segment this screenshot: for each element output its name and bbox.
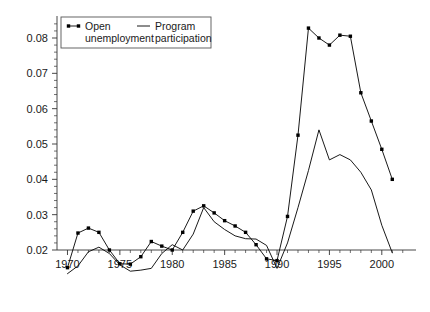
y-tick-label: 0.04	[27, 173, 48, 185]
x-tick-label: 2000	[370, 258, 394, 270]
series-marker	[359, 91, 362, 94]
series-marker	[108, 248, 111, 251]
series-marker	[97, 231, 100, 234]
series-marker	[202, 204, 205, 207]
legend-swatch-marker	[67, 24, 70, 27]
x-tick-label: 1980	[160, 258, 184, 270]
series-marker	[265, 257, 268, 260]
series-marker	[181, 231, 184, 234]
series-marker	[338, 33, 341, 36]
series-marker	[307, 26, 310, 29]
series-marker	[150, 240, 153, 243]
y-tick-label: 0.02	[27, 244, 48, 256]
series-marker	[349, 35, 352, 38]
legend-label: Open	[85, 20, 111, 32]
y-tick-label: 0.06	[27, 103, 48, 115]
series-marker	[370, 119, 373, 122]
series-marker	[87, 226, 90, 229]
legend-swatch-marker	[77, 24, 80, 27]
series-marker	[244, 231, 247, 234]
series-marker	[254, 243, 257, 246]
series-marker	[192, 209, 195, 212]
y-tick-label: 0.03	[27, 209, 48, 221]
chart-legend: OpenunemploymentProgramparticipation	[61, 17, 212, 48]
series-marker	[275, 259, 278, 262]
legend-label: Program	[155, 20, 196, 32]
y-tick-label: 0.08	[27, 32, 48, 44]
series-marker	[317, 36, 320, 39]
y-tick-label: 0.05	[27, 138, 48, 150]
legend-label: participation	[155, 32, 212, 44]
series-marker	[171, 248, 174, 251]
series-marker	[328, 43, 331, 46]
series-marker	[212, 211, 215, 214]
series-marker	[129, 262, 132, 265]
series-marker	[391, 178, 394, 181]
chart-container: 0.020.030.040.050.060.070.08 19701975198…	[0, 0, 430, 312]
series-marker	[160, 244, 163, 247]
series-marker	[223, 219, 226, 222]
line-chart: 0.020.030.040.050.060.070.08 19701975198…	[0, 0, 430, 312]
series-marker	[233, 224, 236, 227]
x-tick-label: 1985	[212, 258, 236, 270]
series-marker	[139, 255, 142, 258]
series-marker	[76, 231, 79, 234]
series-marker	[380, 148, 383, 151]
x-tick-label: 1995	[317, 258, 341, 270]
series-marker	[66, 266, 69, 269]
series-marker	[286, 215, 289, 218]
y-tick-label: 0.07	[27, 67, 48, 79]
series-marker	[296, 133, 299, 136]
legend-label: unemployment	[85, 32, 154, 44]
